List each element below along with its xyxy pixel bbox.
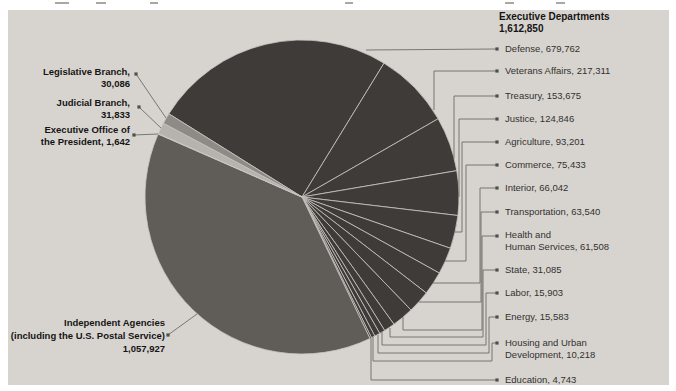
leader-marker-transportation	[495, 210, 498, 213]
leader-marker-justice	[495, 117, 498, 120]
label-executive-office-president: Executive Office of the President, 1,642	[41, 124, 130, 148]
leader-marker-agriculture	[495, 140, 498, 143]
group-label-executive-departments: Executive Departments 1,612,850	[499, 11, 610, 34]
leader-marker-energy	[495, 315, 498, 318]
leader-marker-education	[495, 378, 498, 381]
leader-line-independent	[168, 314, 197, 335]
leader-marker-independent	[166, 333, 169, 336]
label-labor: Labor, 15,903	[505, 287, 563, 299]
leader-marker-hhs	[495, 234, 498, 237]
label-education: Education, 4,743	[505, 374, 576, 386]
group-title: Independent Agencies	[11, 316, 165, 329]
leader-marker-judicial	[137, 105, 140, 108]
label-housing-urban-development: Housing and Urban Development, 10,218	[505, 337, 595, 361]
leader-marker-commerce	[495, 163, 498, 166]
leader-line-hud	[373, 337, 497, 361]
group-total: 1,612,850	[499, 23, 610, 35]
group-title: Executive Departments	[499, 11, 610, 23]
leader-line-execoffice	[134, 134, 158, 135]
leader-line-agriculture	[455, 142, 497, 232]
label-commerce: Commerce, 75,433	[505, 159, 586, 171]
label-agriculture: Agriculture, 93,201	[505, 136, 585, 148]
leader-marker-labor	[495, 291, 498, 294]
leader-line-veterans	[434, 71, 497, 110]
leader-marker-interior	[495, 186, 498, 189]
leader-marker-hud	[495, 341, 498, 344]
label-health-human-services: Health and Human Services, 61,508	[505, 229, 609, 253]
label-defense: Defense, 679,762	[505, 43, 580, 55]
label-judicial-branch: Judicial Branch, 31,833	[57, 97, 130, 121]
label-state: State, 31,085	[505, 264, 562, 276]
label-legislative-branch: Legislative Branch, 30,086	[43, 66, 130, 90]
figure: Executive Departments 1,612,850 Defense,…	[0, 0, 676, 391]
label-treasury: Treasury, 153,675	[505, 90, 581, 102]
leader-marker-treasury	[495, 94, 498, 97]
group-subtitle: (including the U.S. Postal Service)	[11, 329, 165, 342]
leader-marker-veterans	[495, 69, 498, 72]
group-total: 1,057,927	[11, 342, 165, 355]
group-label-independent-agencies: Independent Agencies (including the U.S.…	[11, 316, 165, 355]
leader-marker-legislative	[134, 72, 137, 75]
leader-line-education	[371, 338, 497, 380]
leader-marker-defense	[495, 47, 498, 50]
leader-line-justice	[459, 119, 497, 197]
leader-marker-state	[495, 268, 498, 271]
leader-line-judicial	[139, 107, 161, 128]
label-veterans-affairs: Veterans Affairs, 217,311	[505, 65, 610, 77]
label-justice: Justice, 124,846	[505, 113, 574, 125]
leader-line-legislative	[136, 74, 166, 118]
leader-marker-execoffice	[132, 133, 135, 136]
label-interior: Interior, 66,042	[505, 182, 568, 194]
label-transportation: Transportation, 63,540	[505, 206, 600, 218]
leader-line-treasury	[454, 96, 497, 158]
label-energy: Energy, 15,583	[505, 311, 569, 323]
leader-line-defense	[366, 49, 497, 50]
